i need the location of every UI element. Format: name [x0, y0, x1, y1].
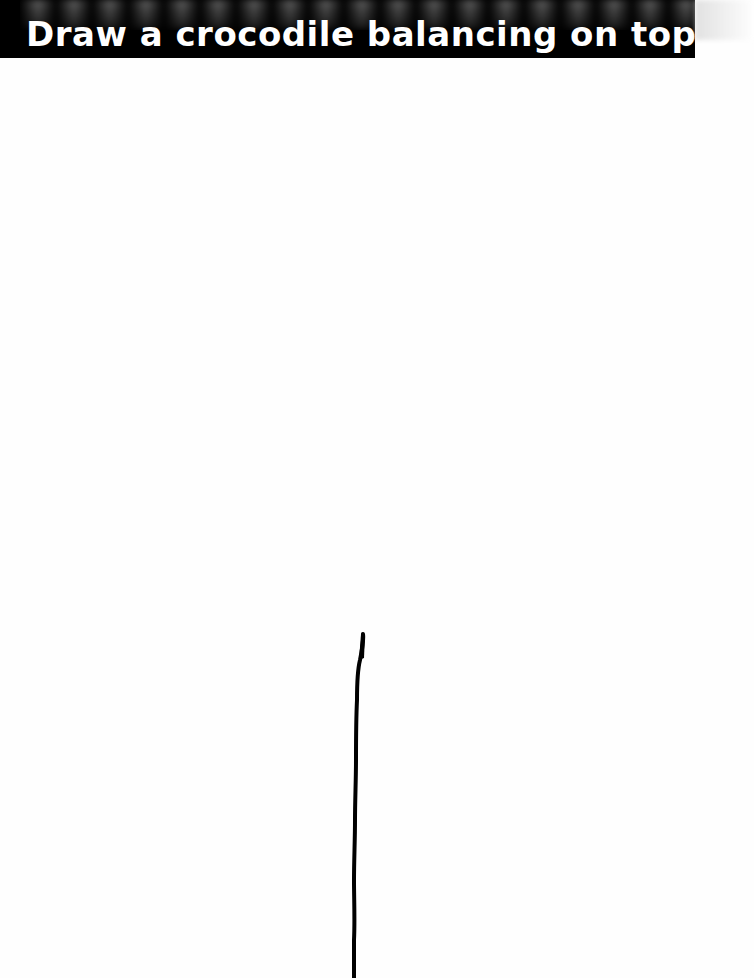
drawing-canvas[interactable]: [0, 58, 754, 978]
drawing-page: Draw a crocodile balancing on top of thi…: [0, 0, 754, 978]
prompt-text: Draw a crocodile balancing on top of thi…: [26, 14, 695, 54]
pole-drawing: [0, 58, 754, 978]
prompt-banner: Draw a crocodile balancing on top of thi…: [0, 0, 695, 58]
banner-edge-fade: [695, 0, 754, 40]
